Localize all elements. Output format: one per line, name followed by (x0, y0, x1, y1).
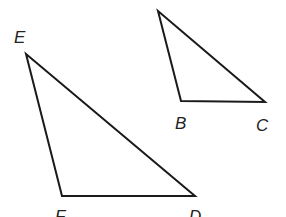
diagram-canvas: E B C F D (0, 0, 286, 217)
vertex-label-e: E (14, 28, 26, 47)
small-triangle (158, 11, 265, 102)
vertex-label-c: C (256, 116, 269, 135)
vertex-label-b: B (175, 114, 186, 133)
large-triangle-def (26, 54, 195, 196)
vertex-label-d: D (189, 207, 201, 217)
vertex-label-f: F (55, 207, 67, 217)
